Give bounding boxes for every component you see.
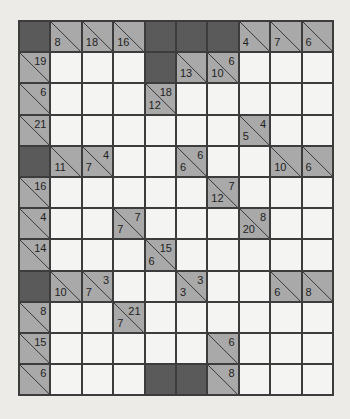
across-clue-sum: 4 (260, 119, 266, 130)
entry-cell[interactable] (113, 364, 144, 395)
entry-cell[interactable] (50, 302, 81, 333)
across-clue-sum: 4 (40, 212, 46, 223)
across-clue-sum: 6 (40, 368, 46, 379)
entry-cell[interactable] (302, 302, 333, 333)
entry-cell[interactable] (82, 177, 113, 208)
entry-cell[interactable] (82, 364, 113, 395)
entry-cell[interactable] (113, 83, 144, 114)
entry-cell[interactable] (302, 239, 333, 270)
entry-cell[interactable] (239, 239, 270, 270)
entry-cell[interactable] (207, 239, 238, 270)
across-clue-sum: 7 (134, 212, 140, 223)
across-clue-sum: 6 (197, 150, 203, 161)
entry-cell[interactable] (145, 208, 176, 239)
entry-cell[interactable] (239, 146, 270, 177)
entry-cell[interactable] (50, 177, 81, 208)
entry-cell[interactable] (302, 208, 333, 239)
entry-cell[interactable] (270, 115, 301, 146)
entry-cell[interactable] (207, 208, 238, 239)
down-clue-sum: 4 (243, 37, 249, 48)
entry-cell[interactable] (176, 83, 207, 114)
block-cell (207, 21, 238, 52)
entry-cell[interactable] (145, 271, 176, 302)
clue-cell: 33 (176, 271, 207, 302)
entry-cell[interactable] (82, 302, 113, 333)
entry-cell[interactable] (113, 239, 144, 270)
entry-cell[interactable] (176, 208, 207, 239)
entry-cell[interactable] (113, 146, 144, 177)
entry-cell[interactable] (302, 115, 333, 146)
entry-cell[interactable] (270, 239, 301, 270)
entry-cell[interactable] (207, 146, 238, 177)
entry-cell[interactable] (50, 208, 81, 239)
entry-cell[interactable] (302, 177, 333, 208)
entry-cell[interactable] (50, 52, 81, 83)
entry-cell[interactable] (50, 115, 81, 146)
entry-cell[interactable] (302, 83, 333, 114)
entry-cell[interactable] (176, 177, 207, 208)
entry-cell[interactable] (239, 271, 270, 302)
clue-cell: 6 (270, 271, 301, 302)
clue-cell: 4 (19, 208, 50, 239)
entry-cell[interactable] (113, 333, 144, 364)
entry-cell[interactable] (176, 115, 207, 146)
entry-cell[interactable] (207, 115, 238, 146)
entry-cell[interactable] (176, 333, 207, 364)
down-clue-sum: 10 (274, 162, 286, 173)
clue-cell: 19 (19, 52, 50, 83)
entry-cell[interactable] (270, 302, 301, 333)
clue-cell: 10 (270, 146, 301, 177)
entry-cell[interactable] (145, 333, 176, 364)
entry-cell[interactable] (82, 115, 113, 146)
entry-cell[interactable] (302, 52, 333, 83)
entry-cell[interactable] (145, 115, 176, 146)
entry-cell[interactable] (113, 115, 144, 146)
entry-cell[interactable] (270, 83, 301, 114)
entry-cell[interactable] (50, 364, 81, 395)
entry-cell[interactable] (239, 302, 270, 333)
across-clue-sum: 6 (229, 56, 235, 67)
clue-cell: 6 (19, 83, 50, 114)
entry-cell[interactable] (270, 333, 301, 364)
entry-cell[interactable] (82, 239, 113, 270)
entry-cell[interactable] (270, 364, 301, 395)
entry-cell[interactable] (82, 208, 113, 239)
entry-cell[interactable] (50, 239, 81, 270)
across-clue-sum: 21 (128, 306, 140, 317)
down-clue-sum: 7 (117, 318, 123, 329)
entry-cell[interactable] (50, 83, 81, 114)
entry-cell[interactable] (270, 177, 301, 208)
entry-cell[interactable] (270, 52, 301, 83)
entry-cell[interactable] (145, 177, 176, 208)
across-clue-sum: 8 (229, 368, 235, 379)
entry-cell[interactable] (145, 302, 176, 333)
entry-cell[interactable] (239, 83, 270, 114)
entry-cell[interactable] (113, 52, 144, 83)
entry-cell[interactable] (239, 364, 270, 395)
entry-cell[interactable] (82, 52, 113, 83)
entry-cell[interactable] (176, 239, 207, 270)
down-clue-sum: 8 (54, 37, 60, 48)
down-clue-sum: 7 (117, 224, 123, 235)
entry-cell[interactable] (113, 177, 144, 208)
entry-cell[interactable] (82, 333, 113, 364)
entry-cell[interactable] (207, 271, 238, 302)
down-clue-sum: 3 (180, 287, 186, 298)
entry-cell[interactable] (207, 302, 238, 333)
entry-cell[interactable] (239, 52, 270, 83)
across-clue-sum: 18 (160, 87, 172, 98)
entry-cell[interactable] (302, 333, 333, 364)
entry-cell[interactable] (176, 302, 207, 333)
entry-cell[interactable] (239, 333, 270, 364)
entry-cell[interactable] (207, 83, 238, 114)
entry-cell[interactable] (113, 271, 144, 302)
clue-cell: 13 (176, 52, 207, 83)
entry-cell[interactable] (82, 83, 113, 114)
entry-cell[interactable] (145, 146, 176, 177)
entry-cell[interactable] (270, 208, 301, 239)
entry-cell[interactable] (239, 177, 270, 208)
across-clue-sum: 4 (103, 150, 109, 161)
entry-cell[interactable] (50, 333, 81, 364)
entry-cell[interactable] (302, 364, 333, 395)
across-clue-sum: 6 (229, 337, 235, 348)
